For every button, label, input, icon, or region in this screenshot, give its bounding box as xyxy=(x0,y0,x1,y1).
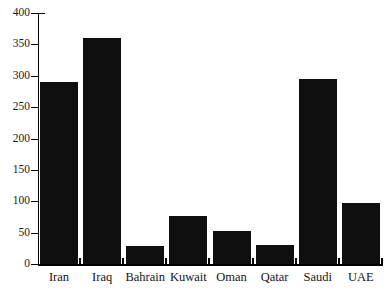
bar xyxy=(169,216,207,264)
x-axis-tick xyxy=(165,258,167,265)
x-axis-tick xyxy=(208,258,210,265)
bar xyxy=(256,245,294,264)
x-axis-tick xyxy=(295,258,297,265)
x-axis-tick xyxy=(122,258,124,265)
bar xyxy=(213,231,251,264)
bar xyxy=(83,38,121,264)
bar xyxy=(40,82,78,264)
x-axis-tick xyxy=(252,258,254,265)
x-axis-tick xyxy=(381,258,383,265)
bars-layer xyxy=(0,0,391,264)
y-axis-tick xyxy=(31,264,38,265)
x-axis-tick xyxy=(79,258,81,265)
x-axis-tick-label: UAE xyxy=(336,271,386,284)
bar xyxy=(299,79,337,264)
bar xyxy=(126,246,164,264)
x-axis-line xyxy=(38,264,383,266)
bar-chart: 050100150200250300350400 IranIraqBahrain… xyxy=(0,0,391,292)
bar xyxy=(342,203,380,264)
x-axis-tick xyxy=(338,258,340,265)
